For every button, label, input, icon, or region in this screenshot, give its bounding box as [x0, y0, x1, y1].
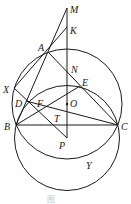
label-m: M: [69, 4, 79, 15]
label-b: B: [4, 121, 10, 132]
label-y: Y: [86, 160, 93, 171]
label-c: C: [121, 121, 128, 132]
label-p: P: [58, 140, 65, 151]
label-f: F: [36, 98, 44, 109]
figure-caption: 图: [47, 195, 55, 204]
label-t: T: [54, 113, 61, 124]
geometry-figure: M K A N E O X D F T B C P Y 图: [0, 0, 131, 204]
label-a: A: [37, 42, 45, 53]
label-e: E: [81, 77, 88, 88]
label-k: K: [69, 25, 78, 36]
label-d: D: [14, 98, 23, 109]
label-o: O: [70, 98, 77, 109]
label-x: X: [2, 84, 10, 95]
line-k-x: [14, 27, 67, 88]
label-n: N: [70, 64, 79, 75]
center-point-o: [66, 103, 68, 105]
